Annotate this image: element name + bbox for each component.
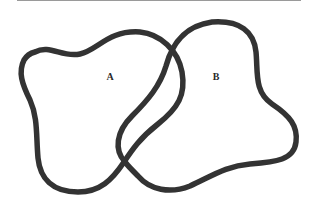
set-b-label: B: [213, 71, 220, 82]
set-a-outline: [21, 32, 183, 192]
set-a-label: A: [106, 71, 114, 82]
diagram-canvas: A B: [0, 0, 316, 211]
set-b-outline: [118, 22, 296, 190]
